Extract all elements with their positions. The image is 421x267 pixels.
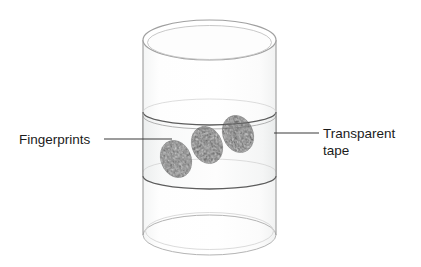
cylinder-top-rim-inner xyxy=(148,26,272,60)
label-transparent-tape-line1: Transparent xyxy=(323,126,396,141)
label-fingerprints: Fingerprints xyxy=(19,132,91,147)
label-transparent-tape-line2: tape xyxy=(323,143,349,158)
fingerprint-tape-diagram: Fingerprints Transparent tape xyxy=(0,0,421,267)
